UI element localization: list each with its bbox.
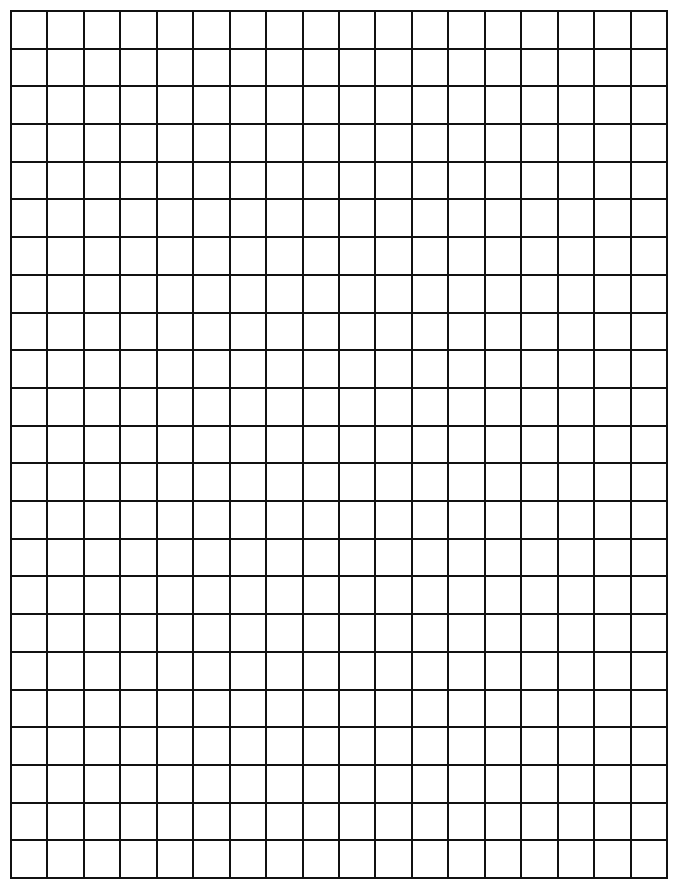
grid-cell — [85, 238, 121, 276]
grid-cell — [632, 87, 668, 125]
grid-cell — [121, 577, 157, 615]
grid-cell — [486, 728, 522, 766]
grid-cell — [12, 464, 48, 502]
grid-cell — [340, 351, 376, 389]
grid-cell — [85, 314, 121, 352]
grid-cell — [158, 87, 194, 125]
grid-cell — [486, 238, 522, 276]
grid-cell — [85, 728, 121, 766]
grid-cell — [522, 276, 558, 314]
grid-cell — [12, 427, 48, 465]
grid-cell — [376, 804, 412, 842]
grid-cell — [194, 427, 230, 465]
grid-cell — [158, 427, 194, 465]
grid-cell — [632, 427, 668, 465]
grid-cell — [595, 615, 631, 653]
grid-cell — [632, 766, 668, 804]
grid-cell — [48, 841, 84, 879]
grid-cell — [158, 577, 194, 615]
grid-cell — [267, 200, 303, 238]
grid-cell — [231, 653, 267, 691]
grid-cell — [267, 125, 303, 163]
grid-cell — [48, 87, 84, 125]
grid-cell — [231, 163, 267, 201]
grid-cell — [48, 125, 84, 163]
grid-cell — [522, 50, 558, 88]
grid-cell — [595, 276, 631, 314]
grid-cell — [48, 804, 84, 842]
grid-cell — [267, 691, 303, 729]
grid-cell — [85, 464, 121, 502]
grid-cell — [85, 50, 121, 88]
grid-cell — [413, 314, 449, 352]
grid-cell — [449, 841, 485, 879]
grid-cell — [559, 163, 595, 201]
grid-cell — [522, 766, 558, 804]
grid-cell — [267, 502, 303, 540]
grid-cell — [121, 427, 157, 465]
grid-cell — [158, 691, 194, 729]
grid-cell — [231, 276, 267, 314]
grid-cell — [267, 728, 303, 766]
grid-cell — [194, 12, 230, 50]
grid-cell — [595, 464, 631, 502]
grid-cell — [121, 314, 157, 352]
grid-cell — [85, 427, 121, 465]
grid-cell — [595, 125, 631, 163]
grid-cell — [376, 427, 412, 465]
grid-cell — [559, 389, 595, 427]
grid-cell — [48, 276, 84, 314]
grid-cell — [559, 50, 595, 88]
grid-cell — [48, 427, 84, 465]
grid-cell — [304, 12, 340, 50]
grid-cell — [85, 691, 121, 729]
grid-cell — [231, 87, 267, 125]
grid-cell — [632, 12, 668, 50]
grid-cell — [85, 841, 121, 879]
grid-cell — [48, 50, 84, 88]
grid-cell — [231, 125, 267, 163]
grid-cell — [486, 653, 522, 691]
grid-cell — [632, 728, 668, 766]
grid-cell — [486, 50, 522, 88]
grid-cell — [340, 125, 376, 163]
grid-cell — [158, 615, 194, 653]
grid-cell — [267, 577, 303, 615]
grid-cell — [522, 12, 558, 50]
grid-cell — [413, 50, 449, 88]
grid-cell — [121, 389, 157, 427]
grid-cell — [85, 577, 121, 615]
grid-cell — [486, 464, 522, 502]
grid-cell — [559, 766, 595, 804]
grid-cell — [304, 653, 340, 691]
grid-cell — [559, 12, 595, 50]
grid-cell — [304, 841, 340, 879]
grid-cell — [522, 577, 558, 615]
grid-cell — [304, 50, 340, 88]
grid-cell — [121, 276, 157, 314]
grid-cell — [632, 389, 668, 427]
grid-cell — [522, 238, 558, 276]
grid-cell — [267, 653, 303, 691]
grid-cell — [194, 238, 230, 276]
grid-cell — [158, 314, 194, 352]
grid-cell — [158, 728, 194, 766]
grid-cell — [449, 577, 485, 615]
grid-cell — [12, 766, 48, 804]
grid-cell — [121, 87, 157, 125]
grid-cell — [121, 12, 157, 50]
grid-cell — [376, 276, 412, 314]
grid-cell — [632, 502, 668, 540]
grid-cell — [12, 276, 48, 314]
grid-cell — [413, 87, 449, 125]
grid-cell — [413, 276, 449, 314]
grid-cell — [48, 200, 84, 238]
grid-cell — [486, 540, 522, 578]
grid-cell — [449, 12, 485, 50]
grid-cell — [194, 615, 230, 653]
grid-cell — [85, 351, 121, 389]
grid-cell — [12, 238, 48, 276]
grid-cell — [413, 728, 449, 766]
grid-cell — [121, 728, 157, 766]
grid-cell — [231, 314, 267, 352]
